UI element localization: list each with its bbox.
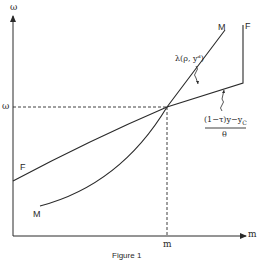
x-axis-label: m — [248, 230, 257, 239]
f-curve — [13, 25, 243, 181]
m-curve-label-end: M — [218, 23, 226, 32]
m-curve-label-start: M — [33, 210, 41, 219]
f-annotation-pointer — [221, 90, 225, 111]
y-axis-label: ω — [10, 3, 17, 12]
f-annotation-denominator: θ — [222, 131, 227, 139]
f-curve-label-end: F — [245, 22, 251, 31]
f-annotation-numerator: (1−τ)y−yC — [204, 116, 247, 126]
figure-caption: Figure 1 — [112, 252, 141, 260]
x-tick-label-m: m — [163, 240, 172, 249]
lambda-annotation: λ(ρ, yᵈ) — [175, 55, 204, 63]
y-tick-label-omega: ω — [2, 102, 9, 111]
f-curve-label-start: F — [20, 163, 26, 172]
